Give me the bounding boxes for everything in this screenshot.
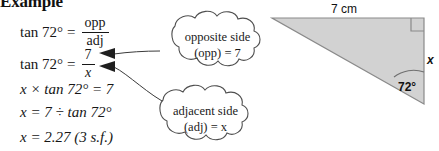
fraction-numerator: 7 <box>82 48 95 63</box>
right-angle-icon <box>411 18 424 31</box>
diagram-angle-label: 72° <box>398 80 416 94</box>
diagram-top-side-label: 7 cm <box>331 2 357 16</box>
callout-adjacent-text: adjacent side (adj) = x <box>163 104 248 135</box>
diagram-right-side-label: x <box>427 53 434 67</box>
callout-opposite-text: opposite side (opp) = 7 <box>175 30 260 61</box>
equation-2-relation: = <box>67 56 75 72</box>
equation-line-2: tan 72°=7x <box>20 49 97 81</box>
leader-line-opposite <box>114 51 160 54</box>
fraction-7-over-x: 7x <box>82 48 95 80</box>
equation-line-4: x = 7 ÷ tan 72° <box>20 105 111 120</box>
leader-line-adjacent <box>114 67 168 104</box>
callout-opposite-line-2: (opp) = 7 <box>175 46 260 62</box>
fraction-denominator: x <box>82 66 95 81</box>
angle-arc-72 <box>394 70 424 77</box>
callout-adjacent-line-1: adjacent side <box>163 104 248 120</box>
fraction-numerator: opp <box>82 16 109 31</box>
fraction-opp-over-adj: oppadj <box>82 16 109 48</box>
equation-line-5: x = 2.27 (3 s.f.) <box>20 130 113 145</box>
arrowhead-to-numerator <box>99 48 115 59</box>
equation-1-lhs: tan 72° <box>20 24 63 40</box>
worked-example-figure: Example tan 72°=oppadj tan 72°=7x x × ta… <box>0 0 439 151</box>
equation-2-lhs: tan 72° <box>20 56 63 72</box>
callout-adjacent-line-2: (adj) = x <box>163 120 248 136</box>
callout-opposite-line-1: opposite side <box>175 30 260 46</box>
arrowhead-to-denominator <box>99 61 115 72</box>
equation-1-relation: = <box>67 24 75 40</box>
equation-line-1: tan 72°=oppadj <box>20 17 111 49</box>
equation-line-3: x × tan 72° = 7 <box>20 82 113 97</box>
page-title: Example <box>0 0 63 12</box>
